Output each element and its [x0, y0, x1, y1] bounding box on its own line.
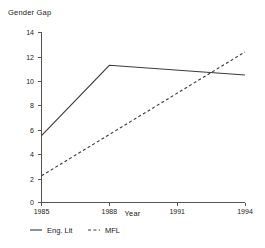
legend-label-eng-lit: Eng. Lit	[47, 226, 73, 235]
line-chart: Gender Gap 14 12 10 8 6 4 2 0	[0, 0, 265, 248]
legend-label-mfl: MFL	[105, 226, 120, 235]
y-tick-label: 10	[26, 78, 34, 85]
series-line-eng-lit	[42, 65, 246, 135]
y-tick-label: 12	[26, 54, 34, 61]
x-axis-title: Year	[0, 209, 265, 218]
y-tick-label: 0	[30, 199, 34, 206]
y-axis-tick-labels: 14 12 10 8 6 4 2 0	[26, 29, 34, 206]
chart-legend: Eng. Lit MFL	[30, 226, 120, 235]
y-tick-label: 8	[30, 102, 34, 109]
y-tick-label: 14	[26, 29, 34, 36]
series-line-mfl	[42, 52, 246, 176]
y-tick-label: 2	[30, 176, 34, 183]
y-tick-label: 6	[30, 127, 34, 134]
y-tick-label: 4	[30, 151, 34, 158]
